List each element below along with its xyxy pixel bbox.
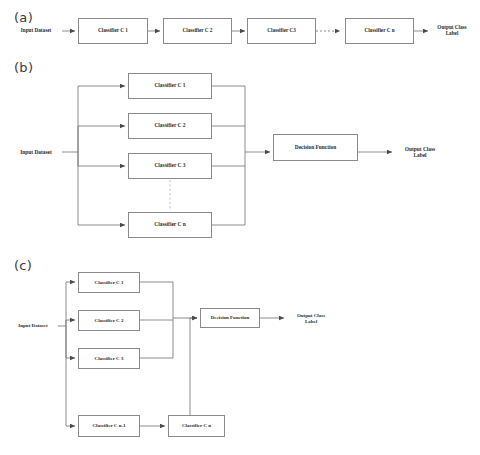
panel-c-input-label: Input Dataset — [8, 319, 58, 333]
panel-b-classifier-c1: Classifier C 1 — [128, 73, 212, 99]
edge-c-input-cn1 — [66, 326, 75, 426]
edge-b-input-c3 — [78, 152, 125, 166]
panel-b-classifier-c2: Classifier C 2 — [128, 113, 212, 139]
panel-a-classifier-c2: Classifier C 2 — [163, 18, 232, 44]
panel-label-b: (b) — [14, 60, 33, 75]
edge-b-input-cn — [78, 152, 125, 225]
panel-label-a: (a) — [14, 10, 33, 25]
edge-b-input-c2 — [78, 126, 125, 152]
panel-b-decision-function: Decision Function — [273, 134, 358, 161]
panel-a-classifier-cn: Classifier C n — [345, 18, 414, 44]
edge-c-c3-bus — [140, 318, 173, 358]
panel-b-input-label: Input Dataset — [10, 145, 62, 159]
edge-b-input-c1 — [78, 86, 125, 152]
edge-b-c1-bus — [212, 86, 245, 152]
edge-c-cn-decision — [190, 318, 197, 415]
edge-c-input-c3 — [66, 326, 75, 358]
edge-c-input-c2 — [66, 320, 75, 326]
edge-c-c1-bus — [140, 282, 173, 318]
edge-b-cn-bus — [212, 152, 245, 225]
panel-b-classifier-c3: Classifier C 3 — [128, 153, 212, 179]
figure-canvas: (a) Input Dataset Classifier C 1 Classif… — [0, 0, 480, 455]
edge-c-input-c1 — [66, 282, 75, 326]
panel-c-classifier-c3: Classifier C 3 — [78, 348, 140, 369]
panel-c-classifier-cn: Classifier C n — [168, 415, 225, 437]
panel-c-classifier-cn-1: Classifier C n-1 — [78, 415, 140, 437]
panel-c-classifier-c1: Classifier C 1 — [78, 272, 140, 293]
panel-c-classifier-c2: Classifier C 2 — [78, 310, 140, 331]
panel-a-output-label: Output Class Label — [428, 22, 476, 40]
panel-label-c: (c) — [14, 258, 32, 273]
panel-b-output-label: Output Class Label — [396, 143, 444, 161]
panel-c-decision-function: Decision Function — [200, 308, 260, 328]
panel-a-classifier-c1: Classifier C 1 — [78, 18, 148, 44]
panel-a-classifier-c3: Classifier C3 — [247, 18, 316, 44]
panel-c-output-label: Output Class Label — [288, 310, 334, 328]
connector-layer — [0, 0, 480, 455]
panel-b-classifier-cn: Classifier C n — [128, 212, 212, 238]
panel-a-input-label: Input Dataset — [10, 24, 62, 38]
